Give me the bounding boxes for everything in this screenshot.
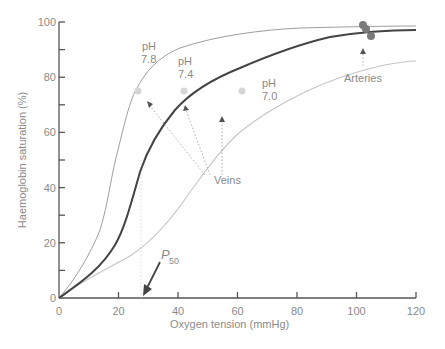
x-tick-80: 80 [291, 305, 303, 317]
veins-arrowheads [147, 101, 225, 122]
vein-point-ph-7-8 [135, 88, 142, 95]
artery-points [359, 21, 375, 40]
vein-points [135, 88, 246, 95]
arteries-label: Arteries [344, 72, 382, 84]
label-ph-7-0-line2: 7.0 [262, 90, 277, 102]
x-tick-labels: 0 20 40 60 80 100 120 [56, 305, 425, 317]
x-tick-0: 0 [56, 305, 62, 317]
artery-point-ph-7-0 [367, 32, 375, 40]
x-tick-100: 100 [347, 305, 365, 317]
label-ph-7-0-line1: pH [262, 77, 276, 89]
label-ph-7-8-line1: pH [142, 40, 156, 52]
label-ph-7-4-line1: pH [178, 55, 192, 67]
veins-arrows [150, 106, 222, 175]
vein-point-ph-7-4 [181, 88, 188, 95]
y-tick-40: 40 [44, 182, 56, 194]
curve-ph-7-8 [59, 26, 416, 298]
label-ph-7-8-line2: 7.8 [141, 53, 156, 65]
artery-point-ph-7-4 [362, 25, 370, 33]
x-tick-40: 40 [172, 305, 184, 317]
oxygen-dissociation-chart: 0 20 40 60 80 100 0 20 40 60 80 100 120 … [0, 0, 445, 349]
y-tick-20: 20 [44, 237, 56, 249]
x-tick-20: 20 [112, 305, 124, 317]
x-axis [59, 292, 416, 298]
y-tick-labels: 0 20 40 60 80 100 [38, 16, 56, 304]
y-axis-title: Haemoglobin saturation (%) [16, 92, 28, 228]
p50-arrow [147, 262, 160, 288]
y-tick-60: 60 [44, 126, 56, 138]
y-tick-100: 100 [38, 16, 56, 28]
p50-subscript: 50 [169, 256, 179, 266]
veins-label: Veins [214, 174, 241, 186]
y-axis [59, 22, 65, 298]
label-ph-7-4-line2: 7.4 [178, 68, 193, 80]
arteries-arrowhead [360, 48, 366, 54]
x-tick-60: 60 [231, 305, 243, 317]
vein-point-ph-7-0 [239, 88, 246, 95]
y-tick-0: 0 [50, 292, 56, 304]
y-tick-80: 80 [44, 71, 56, 83]
x-axis-title: Oxygen tension (mmHg) [170, 318, 289, 330]
x-tick-120: 120 [407, 305, 425, 317]
